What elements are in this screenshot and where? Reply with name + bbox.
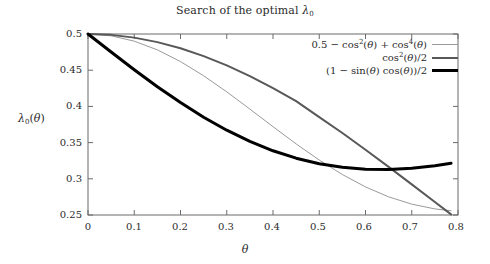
legend-label: cos2(θ)/2 bbox=[382, 52, 427, 63]
legend-entry-medium: cos2(θ)/2 bbox=[250, 51, 458, 64]
legend-entry-thick: (1 − sin(θ) cos(θ))/2 bbox=[250, 64, 458, 77]
legend-entry-thin: 0.5 − cos2(θ) + cos4(θ) bbox=[250, 38, 458, 51]
legend-label: (1 − sin(θ) cos(θ))/2 bbox=[326, 65, 427, 76]
legend-label: 0.5 − cos2(θ) + cos4(θ) bbox=[311, 39, 427, 50]
legend-line-sample-medium bbox=[432, 57, 458, 59]
legend-line-sample-thick bbox=[432, 69, 458, 72]
legend: 0.5 − cos2(θ) + cos4(θ) cos2(θ)/2 (1 − s… bbox=[250, 38, 458, 77]
figure-canvas: Search of the optimal λ0 λ0(θ) θ 0.5 0.4… bbox=[0, 0, 490, 264]
legend-line-sample-thin bbox=[432, 44, 458, 45]
